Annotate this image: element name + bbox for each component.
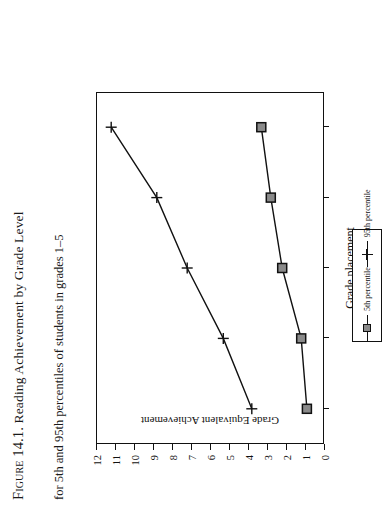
square-marker-icon [297,334,306,343]
y-tick: 4 [248,444,249,450]
y-tick: 5 [229,444,230,450]
square-marker-icon [363,324,371,332]
y-tick-label: 6 [206,455,217,460]
y-tick-label: 7 [187,455,198,460]
y-tick: 3 [267,444,268,450]
x-tick [324,337,329,338]
y-tick-label: 9 [149,455,160,460]
x-tick [324,267,329,268]
y-tick: 12 [96,444,97,450]
square-marker-icon [257,123,266,132]
y-tick: 9 [153,444,154,450]
cross-marker-icon [362,249,373,260]
y-tick-label: 11 [111,455,122,465]
y-axis-label: Grade Equivalent Achievement [141,415,279,427]
figure-caption: Figure 14.1. Reading Achievement by Grad… [10,30,67,500]
square-marker-icon [278,264,287,273]
y-tick-label: 5 [225,455,236,460]
figure-number-label: Figure 14.1. [10,427,26,500]
y-tick: 10 [134,444,135,450]
series-line-95th-percentile [111,127,252,409]
y-tick: 7 [191,444,192,450]
chart-legend: 5th percentile 95th percentile [352,229,382,342]
x-tick [324,126,329,127]
y-tick: 0 [324,444,325,450]
y-tick-label: 4 [244,455,255,460]
chart-series-svg [96,92,324,444]
square-marker-icon [302,404,311,413]
chart-plot-area: 1211109876543210 Grade Equivalent Achiev… [96,92,324,444]
cross-marker-icon [182,263,193,274]
y-tick: 2 [286,444,287,450]
cross-marker-icon [106,122,117,133]
y-tick-label: 0 [320,455,331,460]
legend-label-5th: 5th percentile [363,267,372,311]
y-tick: 6 [210,444,211,450]
y-tick-label: 8 [168,455,179,460]
y-tick: 8 [172,444,173,450]
y-tick: 11 [115,444,116,450]
rotated-page-container: Figure 14.1. Reading Achievement by Grad… [0,0,383,518]
y-tick-label: 12 [92,455,103,466]
square-marker-icon [266,193,275,202]
figure-title: Figure 14.1. Reading Achievement by Grad… [10,30,27,500]
y-tick-label: 3 [263,455,274,460]
cross-marker-icon [246,403,257,414]
cross-marker-icon [151,192,162,203]
legend-line-95th [367,241,368,267]
cross-marker-icon [218,333,229,344]
y-tick-label: 10 [130,455,141,466]
legend-item-95th-percentile: 95th percentile [363,189,372,267]
y-tick-label: 1 [301,455,312,460]
figure-title-text: Reading Achievement by Grade Level [11,211,26,423]
legend-label-95th: 95th percentile [363,189,372,237]
x-tick [324,408,329,409]
figure-subtitle: for 5th and 95th percentiles of students… [52,30,67,500]
y-tick: 1 [305,444,306,450]
y-tick-label: 2 [282,455,293,460]
legend-line-5th [367,315,368,341]
legend-item-5th-percentile: 5th percentile [363,267,372,341]
x-tick [324,197,329,198]
